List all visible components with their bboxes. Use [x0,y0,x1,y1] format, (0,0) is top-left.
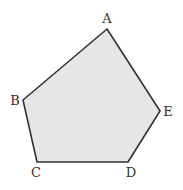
vertex-label-e: E [163,104,173,119]
vertex-label-d: D [126,165,136,180]
vertex-label-a: A [101,11,112,26]
pentagon-diagram: A B C D E [0,0,183,190]
vertex-label-c: C [31,165,41,180]
vertex-label-b: B [10,93,20,108]
pentagon-abcde [23,29,160,162]
